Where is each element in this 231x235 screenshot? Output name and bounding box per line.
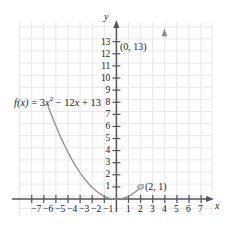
annotation-y-intercept: (0, 13) — [120, 42, 147, 52]
function-label: f(x) = 3x2 − 12x + 13 — [14, 96, 101, 108]
function-plus: + — [82, 97, 88, 108]
x-axis-label: x — [215, 201, 219, 211]
y-tick-label-4: 4 — [93, 146, 110, 156]
y-tick-label-2: 2 — [93, 170, 110, 180]
function-exponent: 2 — [50, 95, 53, 102]
x-tick-label-7: 7 — [198, 205, 203, 215]
graph-figure: y x (0, 13) (2, 1) f(x) = 3x2 − 12x + 13… — [0, 0, 231, 235]
y-tick-label-13: 13 — [93, 38, 110, 48]
x-tick-label-6: 6 — [186, 205, 191, 215]
y-tick-label-9: 9 — [93, 86, 110, 96]
x-tick-label-3: 3 — [150, 205, 155, 215]
x-tick-label-4: 4 — [162, 205, 167, 215]
function-minus: − — [56, 97, 62, 108]
function-fx: f(x) — [14, 97, 29, 108]
y-axis-label: y — [104, 12, 108, 22]
x-tick-label-2: 2 — [138, 205, 143, 215]
marked-points — [138, 185, 144, 190]
y-tick-label-10: 10 — [93, 74, 110, 84]
y-axis — [113, 20, 119, 212]
x-tick-label--1: −1 — [94, 205, 113, 215]
y-tick-label-1: 1 — [93, 182, 110, 192]
y-tick-label-6: 6 — [93, 122, 110, 132]
y-tick-label-5: 5 — [93, 134, 110, 144]
function-var2: x — [75, 97, 80, 108]
y-tick-label-11: 11 — [93, 62, 110, 72]
coordinate-plane — [0, 0, 231, 235]
function-equals: = — [31, 97, 37, 108]
x-tick-label-5: 5 — [174, 205, 179, 215]
y-tick-label-12: 12 — [93, 50, 110, 60]
function-linear-coefficient: 12 — [64, 97, 75, 108]
y-tick-label-8: 8 — [93, 98, 110, 108]
y-tick-label-3: 3 — [93, 158, 110, 168]
x-tick-label-1: 1 — [126, 205, 131, 215]
annotation-vertex: (2, 1) — [145, 182, 167, 192]
y-tick-label-7: 7 — [93, 110, 110, 120]
